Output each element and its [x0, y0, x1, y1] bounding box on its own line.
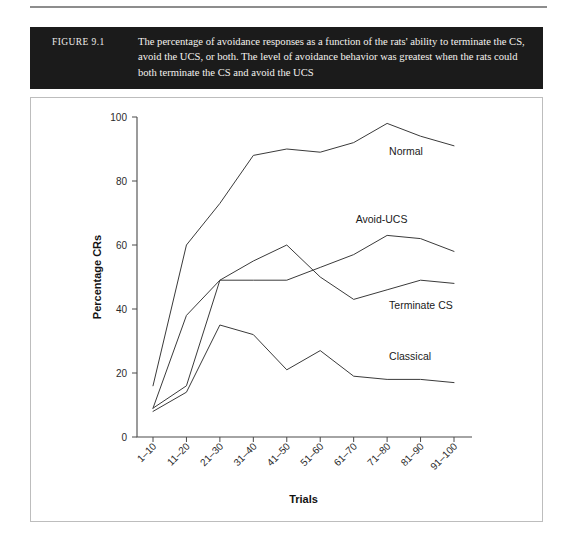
x-axis-tick-label: 31–40	[231, 440, 259, 468]
chart-axes	[137, 117, 472, 437]
y-axis-title: Percentage CRs	[91, 235, 103, 319]
x-axis-title: Trials	[289, 493, 318, 505]
x-axis-tick-label: 21–30	[198, 440, 226, 468]
series-annotation-label: Classical	[389, 350, 431, 362]
y-axis-tick-label: 40	[116, 304, 128, 315]
chart-series-line	[153, 325, 454, 411]
figure-caption-band: FIGURE 9.1 The percentage of avoidance r…	[30, 27, 543, 89]
series-annotation-label: Normal	[389, 145, 423, 157]
x-axis-tick-label: 1–10	[135, 440, 159, 464]
page-top-rule	[30, 6, 547, 8]
x-axis-tick-label: 11–20	[165, 440, 192, 467]
y-axis-tick-label: 60	[116, 240, 128, 251]
x-axis-tick-label: 41–50	[265, 440, 293, 468]
chart-plot-area: 020406080100Percentage CRs1–1011–2021–30…	[31, 98, 544, 523]
figure-number-label: FIGURE 9.1	[52, 37, 105, 47]
y-axis-tick-label: 100	[110, 112, 127, 123]
x-axis-tick-label: 71–80	[365, 440, 393, 468]
y-axis-tick-label: 0	[121, 432, 127, 443]
figure-page: FIGURE 9.1 The percentage of avoidance r…	[0, 0, 573, 544]
y-axis-tick-label: 20	[116, 368, 128, 379]
series-annotation-label: Terminate CS	[389, 299, 453, 311]
figure-frame: 020406080100Percentage CRs1–1011–2021–30…	[30, 97, 543, 522]
line-chart: 020406080100Percentage CRs1–1011–2021–30…	[31, 98, 544, 523]
x-axis-tick-label: 51–60	[298, 440, 326, 468]
y-axis-tick-label: 80	[116, 176, 128, 187]
figure-caption-text: The percentage of avoidance responses as…	[138, 34, 528, 80]
x-axis-tick-label: 91–100	[428, 440, 460, 472]
chart-series-line	[153, 245, 454, 408]
x-axis-tick-label: 61–70	[332, 440, 360, 468]
series-annotation-label: Avoid-UCS	[356, 213, 408, 225]
chart-series-line	[153, 123, 454, 385]
x-axis-tick-label: 81–90	[399, 440, 427, 468]
